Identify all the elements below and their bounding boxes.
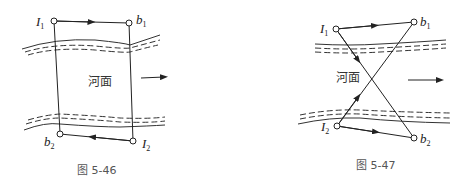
flow-arrow-icon [141, 77, 164, 78]
right-line [129, 23, 133, 141]
label-b2: b2 [44, 134, 55, 151]
river-label: 河面 [88, 75, 112, 89]
left-line [54, 21, 60, 133]
point-I1 [333, 26, 339, 32]
river-label: 河面 [336, 71, 360, 85]
label-b2: b2 [420, 131, 431, 148]
label-I1: I1 [35, 14, 44, 31]
point-b2 [411, 135, 417, 141]
point-I1 [51, 18, 57, 24]
figure-5-47: I1 b1 I2 b2 河面 图 5-47 [298, 14, 450, 172]
upper-riverbank [315, 40, 446, 53]
figure-5-46: I1 b1 b2 I2 河面 图 5-46 [22, 12, 165, 177]
point-I2 [130, 138, 136, 144]
diagram-canvas: I1 b1 b2 I2 河面 图 5-46 [0, 0, 470, 185]
lower-riverbank [24, 114, 165, 130]
point-b2 [57, 131, 63, 137]
label-b1: b1 [136, 12, 147, 29]
upper-riverbank [22, 35, 160, 55]
figure-caption: 图 5-47 [356, 159, 395, 172]
label-I1: I1 [319, 21, 328, 38]
point-b1 [411, 19, 417, 25]
label-I2: I2 [320, 119, 329, 136]
label-b1: b1 [420, 14, 431, 31]
point-b1 [126, 20, 132, 26]
figure-caption: 图 5-46 [77, 164, 116, 177]
point-I2 [334, 123, 340, 129]
label-I2: I2 [141, 136, 150, 153]
